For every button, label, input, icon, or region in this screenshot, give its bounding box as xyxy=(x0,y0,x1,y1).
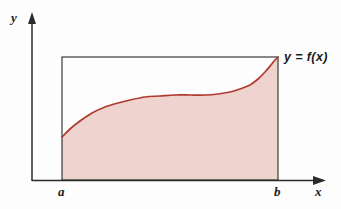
y-axis-label: y xyxy=(11,11,17,24)
lower-bound-label: a xyxy=(58,185,65,198)
x-axis-label: x xyxy=(315,185,322,198)
figure-container: y x a b y = f(x) xyxy=(0,0,341,209)
area-under-curve-figure xyxy=(0,0,341,209)
function-equation-label: y = f(x) xyxy=(284,51,328,64)
y-axis-arrowhead-icon xyxy=(28,12,36,24)
upper-bound-label: b xyxy=(274,185,281,198)
shaded-area-region xyxy=(62,57,278,180)
